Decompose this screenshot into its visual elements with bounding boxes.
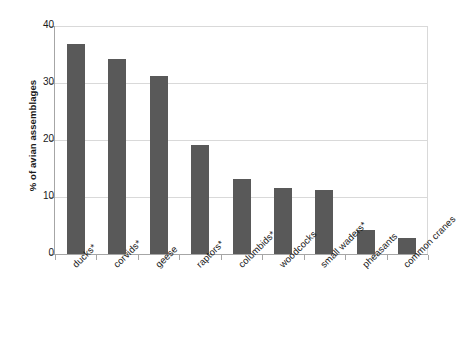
y-tick-label-10: 10: [14, 191, 54, 201]
bar: [67, 44, 85, 254]
y-tick-label-20: 20: [14, 134, 54, 144]
gridline-40: [55, 26, 428, 27]
bar: [108, 59, 126, 254]
x-tick: [428, 255, 429, 260]
x-tick: [262, 255, 263, 260]
x-tick: [221, 255, 222, 260]
x-tick: [179, 255, 180, 260]
bar: [150, 76, 168, 254]
y-tick-label-30: 30: [14, 77, 54, 87]
x-tick: [96, 255, 97, 260]
x-tick: [304, 255, 305, 260]
y-tick-label-0: 0: [14, 248, 54, 258]
x-tick: [138, 255, 139, 260]
plot-area: [55, 26, 428, 254]
x-tick: [345, 255, 346, 260]
bar: [191, 145, 209, 254]
x-tick: [387, 255, 388, 260]
bar: [274, 188, 292, 254]
bar: [315, 190, 333, 254]
y-tick-label-40: 40: [14, 20, 54, 30]
x-tick: [55, 255, 56, 260]
bar: [233, 179, 251, 254]
